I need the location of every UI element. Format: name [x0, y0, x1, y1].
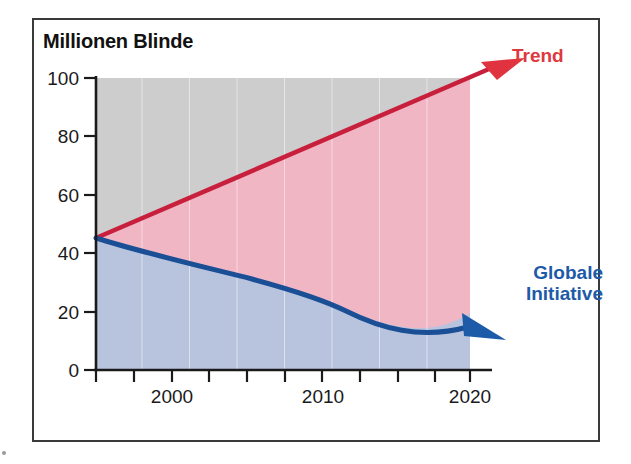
x-axis-ticks — [96, 370, 470, 382]
legend-label-trend: Trend — [512, 45, 564, 66]
x-tick-label-2000: 2000 — [132, 386, 212, 408]
y-tick-label-40: 40 — [33, 243, 79, 265]
y-axis-ticks — [84, 78, 96, 370]
y-tick-label-20: 20 — [33, 302, 79, 324]
x-tick-label-2010: 2010 — [283, 386, 363, 408]
chart-figure: Millionen Blinde — [0, 0, 631, 464]
y-tick-label-80: 80 — [33, 126, 79, 148]
corner-mark — [2, 451, 6, 455]
y-tick-label-60: 60 — [33, 185, 79, 207]
y-tick-label-100: 100 — [33, 68, 79, 90]
x-tick-label-2020: 2020 — [430, 386, 510, 408]
legend-label-initiative-line1: Globale — [497, 262, 603, 283]
legend-label-initiative: Globale Initiative — [497, 262, 603, 305]
legend-label-initiative-line2: Initiative — [497, 283, 603, 304]
y-tick-label-0: 0 — [33, 360, 79, 382]
